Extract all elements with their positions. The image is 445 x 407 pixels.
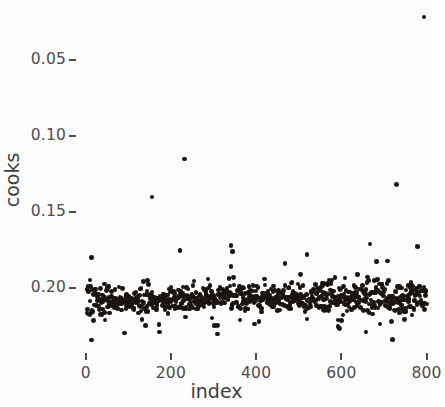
scatter-point	[108, 311, 112, 315]
x-tick-mark	[340, 353, 342, 360]
scatter-point	[157, 322, 161, 326]
y-tick-mark	[69, 135, 76, 137]
scatter-point	[262, 277, 267, 282]
scatter-point	[374, 259, 379, 264]
scatter-point	[242, 286, 246, 290]
scatter-point	[91, 318, 96, 323]
scatter-point	[202, 305, 206, 309]
scatter-point	[150, 290, 154, 294]
scatter-point	[366, 278, 371, 283]
scatter-point-outlier	[150, 195, 154, 199]
scatter-point	[422, 307, 427, 312]
scatter-point	[226, 297, 230, 301]
scatter-point	[364, 287, 368, 291]
scatter-point	[215, 332, 219, 336]
scatter-point	[238, 318, 242, 322]
scatter-point	[246, 307, 250, 311]
x-tick-label: 0	[46, 366, 126, 382]
scatter-point	[301, 283, 306, 288]
scatter-point-outlier	[230, 249, 234, 253]
scatter-point	[122, 331, 127, 336]
scatter-point	[186, 287, 191, 292]
scatter-point	[412, 308, 416, 312]
scatter-point	[339, 318, 344, 323]
scatter-point	[415, 244, 420, 249]
scatter-point	[390, 337, 395, 342]
y-axis-title: cooks	[2, 120, 22, 240]
scatter-point	[389, 319, 394, 324]
y-tick-label: 0.20	[8, 280, 66, 296]
scatter-point	[229, 264, 234, 269]
scatter-point	[386, 278, 391, 283]
scatter-point	[256, 285, 260, 289]
scatter-point	[146, 309, 151, 314]
scatter-point-outlier	[422, 15, 426, 19]
scatter-point	[103, 318, 107, 322]
scatter-point	[305, 317, 309, 321]
scatter-point	[88, 278, 92, 282]
scatter-point	[88, 299, 92, 303]
scatter-point	[410, 313, 414, 317]
scatter-point	[157, 330, 162, 335]
scatter-point	[98, 286, 103, 291]
scatter-point-outlier	[182, 157, 186, 161]
scatter-point	[146, 282, 151, 287]
scatter-point	[424, 302, 429, 307]
scatter-point	[287, 306, 292, 311]
scatter-point	[368, 242, 372, 246]
scatter-point	[183, 315, 187, 319]
scatter-point	[259, 306, 264, 311]
scatter-point	[327, 304, 332, 309]
scatter-point	[402, 317, 407, 322]
x-tick-label: 600	[301, 366, 381, 382]
scatter-point	[120, 286, 125, 291]
scatter-point	[252, 322, 256, 326]
scatter-point	[385, 259, 389, 263]
y-tick-mark	[69, 211, 76, 213]
scatter-point	[355, 272, 360, 277]
y-tick-mark	[69, 59, 76, 61]
scatter-point-outlier	[229, 243, 233, 247]
scatter-point	[378, 322, 382, 326]
scatter-point	[331, 289, 335, 293]
scatter-point	[343, 276, 347, 280]
scatter-point	[232, 283, 236, 287]
scatter-point	[399, 286, 403, 290]
scatter-point	[370, 312, 374, 316]
scatter-point	[212, 305, 216, 309]
x-tick-mark	[85, 353, 87, 360]
scatter-point	[406, 296, 411, 301]
scatter-point	[298, 272, 303, 277]
scatter-point	[106, 284, 110, 288]
scatter-point	[89, 255, 94, 260]
scatter-points-layer	[78, 8, 433, 352]
scatter-point	[143, 323, 148, 328]
scatter-point	[333, 275, 338, 280]
scatter-point	[290, 280, 295, 285]
scatter-point	[337, 326, 342, 331]
scatter-point	[341, 313, 345, 317]
scatter-point	[191, 283, 195, 287]
scatter-point	[206, 277, 210, 281]
scatter-point	[382, 287, 387, 292]
scatter-point	[308, 304, 313, 309]
scatter-point	[231, 275, 236, 280]
scatter-point	[263, 283, 267, 287]
scatter-point	[192, 279, 196, 283]
scatter-point-outlier	[394, 182, 399, 187]
scatter-point	[364, 330, 368, 334]
x-tick-mark	[170, 353, 172, 360]
y-tick-label: 0.05	[8, 52, 66, 68]
scatter-point	[423, 293, 428, 298]
x-tick-mark	[426, 353, 428, 360]
scatter-point	[283, 261, 288, 266]
y-tick-mark	[69, 287, 76, 289]
scatter-point	[215, 323, 220, 328]
scatter-point	[89, 338, 93, 342]
scatter-point	[178, 248, 183, 253]
plot-panel	[78, 8, 433, 352]
x-tick-label: 800	[387, 366, 445, 382]
scatter-point	[257, 319, 262, 324]
scatter-point	[305, 252, 310, 257]
